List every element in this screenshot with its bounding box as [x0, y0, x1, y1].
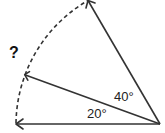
question-mark: ?	[9, 44, 19, 61]
angle-40-label: 40°	[114, 89, 134, 104]
dashed-arc	[16, 1, 88, 124]
angle-20-label: 20°	[87, 106, 107, 121]
angle-diagram: 40° 20° ?	[0, 0, 165, 133]
